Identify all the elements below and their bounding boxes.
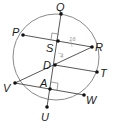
label-Q: Q (56, 1, 65, 13)
right-angle-marker-A (51, 82, 58, 90)
annotation-4: 4 (60, 53, 64, 59)
circle (13, 14, 99, 100)
label-U: U (41, 111, 49, 123)
point-S (56, 39, 60, 43)
point-A (48, 87, 52, 91)
point-D (53, 63, 57, 67)
label-S: S (46, 42, 54, 54)
label-T: T (100, 67, 108, 79)
label-D: D (43, 59, 51, 71)
circle-diagram: 16 4 Q P R S D T V A W U (0, 0, 115, 128)
point-V (13, 81, 17, 85)
point-P (21, 33, 25, 37)
label-V: V (3, 82, 12, 94)
point-R (90, 45, 94, 49)
label-W: W (86, 94, 98, 106)
segment-DT (55, 65, 97, 72)
label-A: A (39, 77, 47, 89)
point-T (95, 70, 99, 74)
annotation-16: 16 (69, 36, 76, 42)
point-U (45, 105, 49, 109)
label-P: P (12, 26, 20, 38)
label-R: R (95, 41, 103, 53)
